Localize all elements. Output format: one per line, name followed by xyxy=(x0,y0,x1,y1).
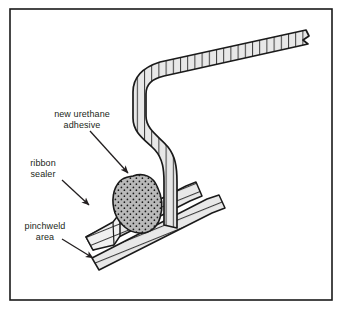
label-pinchweld-line2: area xyxy=(36,232,54,242)
figure-container: new urethane adhesive ribbon sealer pinc… xyxy=(0,0,342,309)
label-sealer-line1: ribbon xyxy=(30,158,56,168)
label-pinchweld-line1: pinchweld xyxy=(25,221,66,231)
label-adhesive-line1: new urethane xyxy=(54,109,110,119)
label-adhesive-line2: adhesive xyxy=(64,120,101,130)
label-ribbon-sealer: ribbon sealer xyxy=(30,158,56,179)
label-sealer-line2: sealer xyxy=(30,169,55,179)
pinchweld-diagram: new urethane adhesive ribbon sealer pinc… xyxy=(0,0,342,309)
